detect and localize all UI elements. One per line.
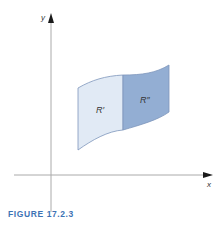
y-axis-arrow-icon	[48, 13, 54, 23]
x-axis-arrow-icon	[203, 172, 213, 178]
region-r-prime-label: R′	[96, 105, 104, 115]
x-axis-label: x	[206, 180, 212, 189]
figure-caption: FIGURE 17.2.3	[8, 209, 74, 219]
y-axis-label: y	[40, 13, 46, 22]
region-r-double-prime-label: R″	[140, 95, 150, 105]
figure-diagram: y x R′ R″	[0, 0, 224, 227]
